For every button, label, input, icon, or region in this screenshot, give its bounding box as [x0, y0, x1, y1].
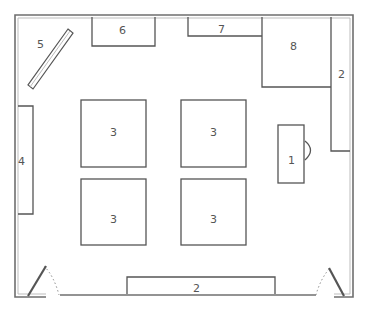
unit-top-left-label: 6: [119, 24, 126, 37]
chair-icon: [305, 141, 311, 160]
table-bottom-left-label: 3: [110, 213, 117, 226]
desk[interactable]: 1: [278, 125, 311, 183]
table-top-left-label: 3: [110, 126, 117, 139]
table-bottom-right-label: 3: [210, 213, 217, 226]
cabinet-right-label: 2: [338, 68, 345, 81]
table-top-left[interactable]: 3: [81, 100, 146, 167]
door-swing-left: [44, 266, 59, 295]
table-top-right-label: 3: [210, 126, 217, 139]
unit-top-right-label: 8: [290, 40, 297, 53]
board-diagonal[interactable]: 5: [28, 29, 73, 89]
unit-top-right[interactable]: 8: [262, 17, 331, 87]
outer-walls: [15, 15, 353, 297]
desk-label: 1: [288, 154, 295, 167]
shelf-left[interactable]: 4: [18, 106, 33, 214]
table-top-right[interactable]: 3: [181, 100, 246, 167]
door-left[interactable]: [28, 266, 59, 296]
door-right[interactable]: [316, 268, 344, 296]
cabinet-right[interactable]: 2: [331, 17, 350, 151]
table-bottom-right[interactable]: 3: [181, 179, 246, 245]
floor-plan: 6 7 8 2 5 4 3 3 3 3: [0, 0, 371, 311]
board-diagonal-label: 5: [37, 38, 44, 51]
shelf-left-label: 4: [18, 155, 25, 168]
door-swing-right: [316, 269, 329, 295]
cabinet-bottom[interactable]: 2: [127, 277, 275, 295]
unit-top-left[interactable]: 6: [92, 17, 155, 46]
unit-top-middle-label: 7: [218, 23, 225, 36]
door-leaf-left: [28, 266, 46, 296]
unit-top-middle[interactable]: 7: [188, 17, 262, 36]
door-leaf-right: [329, 268, 344, 296]
cabinet-bottom-label: 2: [193, 282, 200, 295]
table-bottom-left[interactable]: 3: [81, 179, 146, 245]
